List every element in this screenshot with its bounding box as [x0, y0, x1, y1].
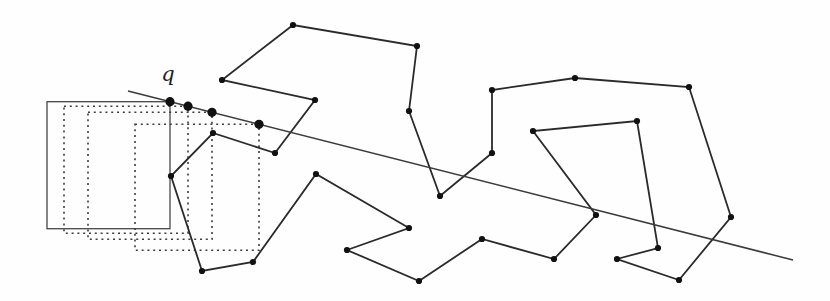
- polygon-vertex-0: [530, 128, 536, 134]
- polygon-vertex-15: [290, 22, 296, 28]
- polygon-vertex-23: [728, 214, 734, 220]
- query-windows: [47, 102, 259, 251]
- query-window-solid: [47, 102, 170, 229]
- polygon-vertex-9: [199, 268, 205, 274]
- polygon-vertex-26: [655, 245, 661, 251]
- polygon-vertex-1: [593, 212, 599, 218]
- polygon-vertex-13: [312, 97, 318, 103]
- polygon-vertex-2: [551, 256, 557, 262]
- polygon-vertices: [168, 22, 734, 284]
- polygon-vertex-22: [686, 84, 692, 90]
- polygon-outline: [171, 25, 731, 281]
- polygon-vertex-6: [406, 225, 412, 231]
- polygon-vertex-14: [219, 77, 225, 83]
- polygon-vertex-5: [344, 247, 350, 253]
- polygon-vertex-17: [406, 108, 412, 114]
- polygon-vertex-11: [210, 130, 216, 136]
- polygon-vertex-21: [572, 75, 578, 81]
- polygon-vertex-10: [168, 173, 174, 179]
- polygon-vertex-25: [614, 256, 620, 262]
- query-ray-line: [128, 91, 793, 260]
- query-point-q-dot: [165, 97, 174, 106]
- query-ray: [128, 91, 793, 260]
- polygon-vertex-24: [676, 277, 682, 283]
- polygon-chain: [171, 25, 731, 281]
- polygon-vertex-12: [272, 150, 278, 156]
- query-point-label: q: [161, 62, 174, 86]
- polygon-vertex-19: [489, 150, 495, 156]
- polygon-vertex-3: [479, 236, 485, 242]
- polygon-vertex-20: [489, 87, 495, 93]
- query-window-dashed-3: [135, 124, 259, 250]
- figure-canvas: q: [0, 0, 830, 301]
- ray-point-2: [207, 108, 216, 117]
- polygon-vertex-27: [634, 118, 640, 124]
- polygon-vertex-18: [437, 193, 443, 199]
- ray-shooting-figure: q: [0, 0, 830, 301]
- ray-hit-points: [165, 97, 263, 129]
- polygon-vertex-16: [414, 43, 420, 49]
- polygon-vertex-7: [313, 171, 319, 177]
- polygon-vertex-4: [416, 278, 422, 284]
- polygon-vertex-8: [250, 259, 256, 265]
- query-window-dashed-2: [88, 112, 212, 239]
- ray-point-3: [254, 120, 263, 129]
- ray-point-1: [183, 102, 192, 111]
